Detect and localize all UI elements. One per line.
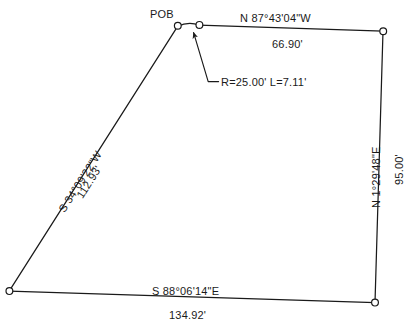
- pob-label: POB: [150, 8, 174, 20]
- survey-plat-drawing: POB N 87°43'04"W 66.90' R=25.00' L=7.11'…: [0, 0, 406, 328]
- plat-geometry: [0, 0, 406, 328]
- north-boundary-line: [199, 25, 383, 31]
- vertex-marker-curve-end: [196, 22, 203, 29]
- north-bearing-label: N 87°43'04"W: [240, 12, 311, 24]
- vertex-marker-northeast: [380, 28, 387, 35]
- curve-callout-leader: [194, 33, 219, 82]
- north-distance-label: 66.90': [272, 38, 303, 50]
- south-bearing-label: S 88°06'14"E: [152, 285, 219, 297]
- boundary-lines: [9, 23, 383, 302]
- east-bearing-label: N 1°29'48"E: [370, 146, 382, 208]
- south-distance-label: 134.92': [169, 309, 206, 321]
- east-distance-label: 95.00': [393, 154, 405, 185]
- curve-callout-label: R=25.00' L=7.11': [221, 76, 307, 88]
- vertex-marker-southeast: [372, 299, 379, 306]
- vertex-marker-southwest: [6, 288, 13, 295]
- vertex-marker-pob: [174, 22, 181, 29]
- vertex-markers: [6, 22, 387, 307]
